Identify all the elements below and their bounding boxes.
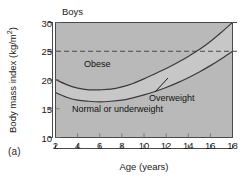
region-label-overweight: Overweight bbox=[149, 93, 195, 103]
y-axis-label-text: Body mass index (kg/m bbox=[7, 34, 18, 133]
panel-label: (a) bbox=[8, 146, 21, 157]
x-tick-label-6: 6 bbox=[90, 140, 110, 151]
x-tick-label-4: 4 bbox=[68, 140, 88, 151]
y-axis-label-tail: ) bbox=[7, 27, 18, 30]
y-axis-tick-labels: 1015202530 bbox=[26, 0, 52, 179]
y-tick-label-20: 20 bbox=[28, 75, 52, 86]
x-tick-label-2: 2 bbox=[46, 140, 66, 151]
x-axis-label: Age (years) bbox=[55, 161, 233, 172]
x-tick-label-12: 12 bbox=[156, 140, 176, 151]
y-tick-label-30: 30 bbox=[28, 17, 52, 28]
chart-title: Boys bbox=[62, 6, 83, 17]
region-label-obese: Obese bbox=[84, 59, 111, 69]
y-axis-label: Body mass index (kg/m2) bbox=[6, 17, 18, 143]
x-tick-label-8: 8 bbox=[112, 140, 132, 151]
y-axis-label-exponent: 2 bbox=[6, 30, 13, 34]
x-tick-label-10: 10 bbox=[134, 140, 154, 151]
x-tick-label-16: 16 bbox=[200, 140, 220, 151]
region-label-normal-or-underweight: Normal or underweight bbox=[72, 104, 163, 114]
bmi-chart-figure: Boys (a) Body mass index (kg/m2) Age (ye… bbox=[0, 0, 248, 179]
x-tick-label-18: 18 bbox=[223, 140, 243, 151]
y-tick-label-25: 25 bbox=[28, 46, 52, 57]
x-tick-label-14: 14 bbox=[178, 140, 198, 151]
y-tick-label-15: 15 bbox=[28, 103, 52, 114]
